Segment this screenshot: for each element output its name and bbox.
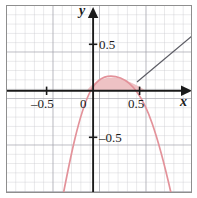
y-tick-label-neg-half: –0.5 xyxy=(99,131,122,144)
graph-figure: y x –0.5 0 0.5 0.5 –0.5 xyxy=(0,0,197,198)
y-tick-label-pos-half: 0.5 xyxy=(99,38,115,51)
x-tick-label-neg-half: –0.5 xyxy=(31,97,54,110)
y-axis-label: y xyxy=(79,4,85,18)
x-axis-label: x xyxy=(180,95,187,109)
y-axis xyxy=(88,7,98,193)
x-tick-label-pos-half: 0.5 xyxy=(128,97,144,110)
origin-label: 0 xyxy=(80,97,87,110)
diagonal-line xyxy=(137,36,192,82)
